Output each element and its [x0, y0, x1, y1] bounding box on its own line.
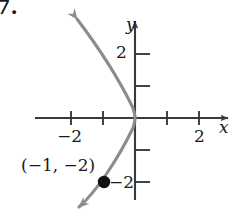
x-tick-label-negative-2: −2 [57, 128, 82, 145]
x-tick-label-2: 2 [194, 128, 205, 145]
y-tick-label-negative-2: −2 [109, 174, 134, 191]
point-coordinate-label: (−1, −2) [21, 157, 95, 174]
y-tick-label-2: 2 [116, 44, 127, 61]
x-axis-label: x [219, 119, 229, 136]
graph-figure: 7. [0, 0, 236, 213]
y-axis-label: y [126, 16, 136, 33]
problem-number: 7. [0, 0, 18, 17]
